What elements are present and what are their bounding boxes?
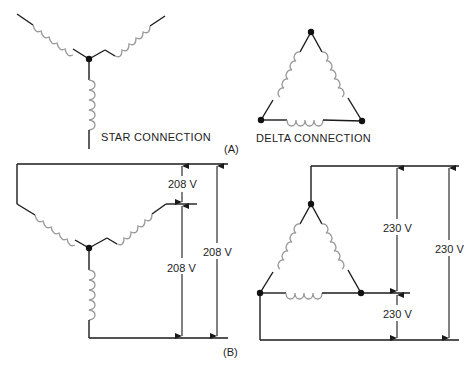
winding-coil-icon [322, 224, 344, 269]
winding-coil-icon [322, 52, 344, 97]
neutral-node-icon [86, 245, 92, 251]
voltage-label-lower: 230 V [383, 308, 412, 320]
voltage-label-phase-upper: 208 V [168, 178, 197, 190]
voltage-label-upper: 230 V [383, 222, 412, 234]
winding-coil-icon [35, 215, 75, 246]
winding-coil-icon [278, 52, 300, 97]
star-connection-a: STAR CONNECTION [17, 14, 211, 149]
winding-coil-icon [286, 293, 322, 299]
winding-coil-icon [278, 224, 300, 269]
delta-connection-label: DELTA CONNECTION [256, 132, 371, 144]
junction-node-icon [258, 117, 264, 123]
part-a-tag: (A) [224, 143, 239, 155]
voltage-label-line: 230 V [435, 243, 464, 255]
junction-node-icon [308, 29, 314, 35]
junction-node-icon [359, 118, 365, 124]
neutral-node-icon [86, 56, 92, 62]
star-connection-b: 208 V 208 V 208 V [17, 164, 232, 338]
voltage-label-line: 208 V [203, 246, 232, 258]
part-b-tag: (B) [223, 346, 238, 358]
winding-coil-icon [115, 26, 150, 57]
junction-node-icon [257, 290, 263, 296]
junction-node-icon [308, 201, 314, 207]
delta-connection-b: 230 V 230 V 230 V [257, 166, 465, 340]
winding-coil-icon [117, 214, 152, 245]
delta-connection-a: DELTA CONNECTION [256, 29, 371, 144]
star-connection-label: STAR CONNECTION [101, 131, 211, 143]
voltage-label-phase-lower: 208 V [167, 262, 196, 274]
three-phase-connection-diagram: STAR CONNECTION DELTA CONNECTION (A) [0, 0, 475, 371]
winding-coil-icon [89, 80, 95, 130]
winding-coil-icon [89, 270, 95, 320]
winding-coil-icon [287, 120, 323, 126]
junction-node-icon [358, 290, 364, 296]
winding-coil-icon [33, 25, 73, 56]
